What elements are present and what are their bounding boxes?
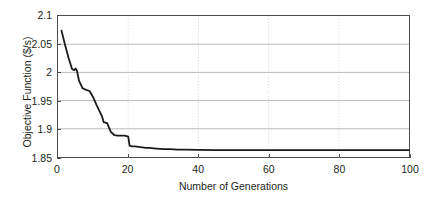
x-axis-title: Number of Generations [57, 180, 410, 192]
data-series-layer [58, 16, 409, 157]
x-tick-label: 40 [178, 164, 218, 175]
plot-area [57, 15, 410, 158]
series-line-0 [62, 31, 409, 151]
y-tick-mark [57, 158, 61, 159]
x-tick-mark [410, 154, 411, 158]
x-tick-label: 20 [108, 164, 148, 175]
x-tick-label: 60 [249, 164, 289, 175]
x-tick-label: 100 [390, 164, 426, 175]
x-tick-label: 0 [37, 164, 77, 175]
x-tick-label: 80 [319, 164, 359, 175]
y-axis-title: Objective Function ($/s) [21, 12, 33, 172]
chart-figure: 1.851.91.9522.052.1 020406080100 Number … [0, 0, 426, 201]
